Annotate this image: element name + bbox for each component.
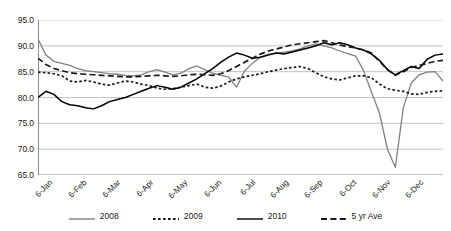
chart-legend: 2008200920105 yr Ave bbox=[0, 206, 451, 226]
series-2008 bbox=[38, 39, 443, 167]
x-tick-label: 6-Dec bbox=[404, 178, 426, 200]
x-tick-label: 6-Feb bbox=[67, 178, 88, 199]
x-tick-label: 6-Mar bbox=[100, 178, 121, 199]
y-tick-label: 65.0 bbox=[18, 170, 34, 180]
x-tick-label: 6-Apr bbox=[135, 178, 156, 199]
legend-item-2010[interactable]: 2010 bbox=[237, 211, 287, 221]
series-5-yr-ave bbox=[38, 41, 443, 77]
y-tick-label: 85.0 bbox=[18, 67, 34, 77]
x-tick-label: 6-May bbox=[167, 178, 189, 200]
y-tick-label: 75.0 bbox=[18, 118, 34, 128]
legend-label: 2010 bbox=[268, 211, 287, 221]
y-tick-label: 80.0 bbox=[18, 93, 34, 103]
legend-item-2008[interactable]: 2008 bbox=[69, 211, 119, 221]
y-tick-label: 95.0 bbox=[18, 15, 34, 25]
y-axis: 95.090.085.080.075.070.065.0 bbox=[0, 0, 34, 180]
y-tick-label: 90.0 bbox=[18, 41, 34, 51]
legend-label: 5 yr Ave bbox=[352, 211, 383, 221]
x-tick-label: 6-Jan bbox=[34, 178, 55, 199]
legend-item-2009[interactable]: 2009 bbox=[153, 211, 203, 221]
legend-item-5-yr-ave[interactable]: 5 yr Ave bbox=[321, 211, 383, 221]
legend-label: 2008 bbox=[100, 211, 119, 221]
plot-area bbox=[38, 20, 443, 175]
x-tick-label: 6-Jul bbox=[238, 178, 257, 197]
x-tick-label: 6-Nov bbox=[370, 178, 392, 200]
x-tick-label: 6-Sep bbox=[303, 178, 325, 200]
x-tick-label: 6-Jun bbox=[202, 178, 223, 199]
x-tick-label: 6-Oct bbox=[338, 178, 359, 199]
series-lines bbox=[38, 20, 443, 175]
line-chart: 95.090.085.080.075.070.065.0 6-Jan6-Feb6… bbox=[0, 0, 451, 231]
y-tick-label: 70.0 bbox=[18, 144, 34, 154]
legend-label: 2009 bbox=[184, 211, 203, 221]
x-tick-label: 6-Aug bbox=[269, 178, 291, 200]
